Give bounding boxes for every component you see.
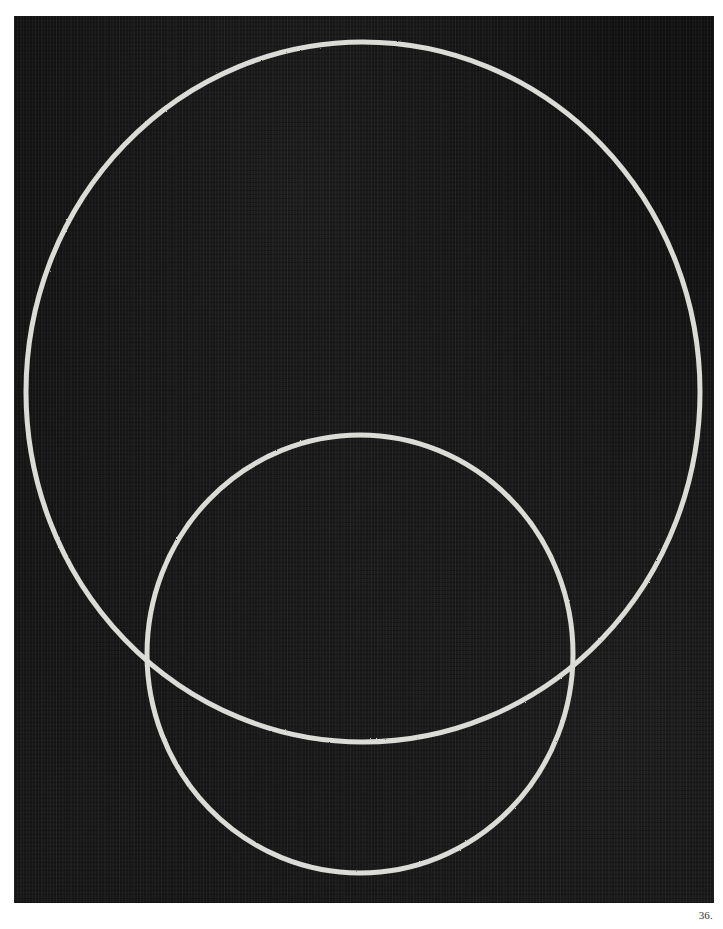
painting-plate — [14, 16, 714, 903]
painting-svg — [14, 16, 714, 903]
page-number: 36. — [699, 909, 713, 921]
large-circle — [26, 42, 700, 742]
book-page: 36. — [0, 0, 723, 929]
small-circle — [147, 435, 573, 873]
